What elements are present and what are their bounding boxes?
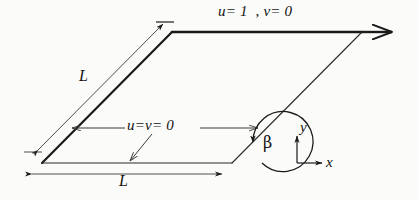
wall-boundary-condition-label: u=v= 0	[127, 118, 174, 133]
beta-angle-label: β	[263, 135, 272, 151]
coordinate-axes	[297, 136, 322, 163]
cavity-flow-diagram: u= 1 , v= 0 u=v= 0 L L β y x	[0, 0, 418, 200]
cavity-edge-left-wall	[42, 32, 172, 163]
left-side-length-label: L	[79, 68, 88, 84]
bottom-side-length-label: L	[119, 173, 128, 189]
lid-boundary-condition-label: u= 1 , v= 0	[218, 4, 292, 19]
wall-condition-leader-arrow	[130, 134, 152, 161]
axis-y-label: y	[300, 120, 307, 135]
axis-x-label: x	[326, 155, 333, 170]
diagram-canvas	[0, 0, 418, 200]
